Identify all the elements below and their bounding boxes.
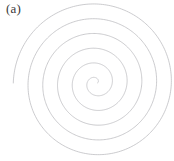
archimedean-spiral-path [13,4,171,155]
figure-panel: (a) [0,0,174,161]
spiral-chart [0,0,174,161]
